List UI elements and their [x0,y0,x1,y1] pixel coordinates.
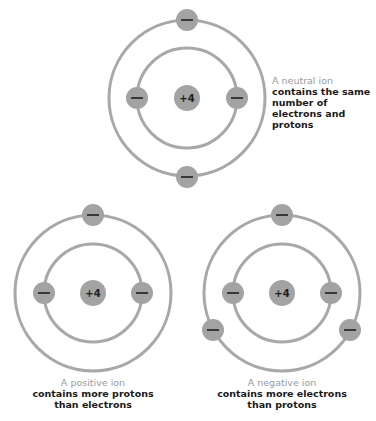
caption-neutral: A neutral ion contains the same number o… [272,75,376,130]
electron [82,204,104,226]
atom-negative: +4 [202,204,361,371]
ion-diagram: +4 +4 +4 [0,0,376,421]
electron [131,282,153,304]
caption-positive: A positive ion contains more protons tha… [20,377,166,410]
nucleus: +4 [80,280,106,306]
caption-body: contains the same number of electrons an… [272,86,376,130]
caption-title: A neutral ion [272,75,376,86]
nucleus-label: +4 [85,288,100,299]
caption-negative: A negative ion contains more electrons t… [209,377,355,410]
caption-body: contains more protons than electrons [20,388,166,410]
caption-title: A positive ion [20,377,166,388]
nucleus-label: +4 [179,93,194,104]
electron [271,204,293,226]
electron [176,9,198,31]
nucleus: +4 [269,280,295,306]
electron [222,282,244,304]
nucleus: +4 [174,85,200,111]
atom-neutral: +4 [109,9,265,188]
nucleus-label: +4 [274,288,289,299]
caption-body: contains more electrons than protons [209,388,355,410]
caption-title: A negative ion [209,377,355,388]
electron [320,282,342,304]
electron [33,282,55,304]
electron [339,319,361,341]
atom-positive: +4 [15,204,171,371]
electron [202,319,224,341]
electron [226,87,248,109]
electron [176,166,198,188]
electron [126,87,148,109]
